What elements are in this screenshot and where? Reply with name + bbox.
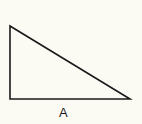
base-label: A <box>59 106 68 119</box>
triangle-diagram <box>0 0 142 124</box>
right-triangle <box>10 26 130 99</box>
